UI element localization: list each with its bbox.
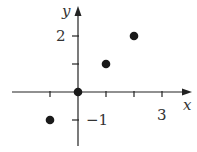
y-tick-label: −1 xyxy=(86,111,108,129)
tick-labels: 32−1 xyxy=(56,27,167,129)
ticks xyxy=(50,36,162,120)
x-axis-label: x xyxy=(183,96,192,114)
y-axis-arrow-icon xyxy=(75,6,82,16)
data-point xyxy=(46,116,55,125)
x-tick-label: 3 xyxy=(157,106,167,124)
x-axis-arrow-icon xyxy=(182,89,192,96)
scatter-chart: 32−1 x y xyxy=(0,0,197,152)
data-point xyxy=(74,88,83,97)
y-tick-label: 2 xyxy=(56,27,66,45)
y-axis-label: y xyxy=(61,2,71,20)
data-point xyxy=(130,32,139,41)
data-point xyxy=(102,60,111,69)
